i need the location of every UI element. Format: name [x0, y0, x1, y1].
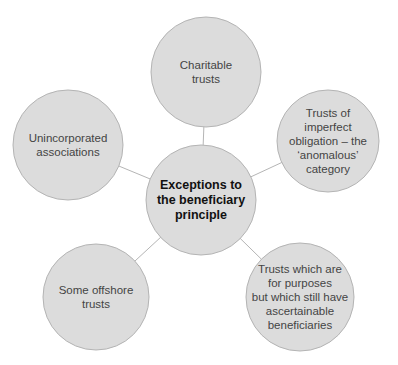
node-text: Trusts of imperfect obligation – the ‘an…: [289, 106, 367, 176]
node-line: Trusts of: [289, 106, 367, 120]
node-line: but which still have: [252, 290, 349, 304]
node-text: Some offshore trusts: [59, 283, 134, 311]
node-text: Trusts which are for purposes but which …: [252, 262, 349, 332]
node-imperfect-obligation: Trusts of imperfect obligation – the ‘an…: [277, 90, 379, 192]
node-text: Charitable trusts: [180, 58, 232, 86]
node-line: associations: [29, 145, 108, 159]
center-node-text: Exceptions to the beneficiary principle: [157, 178, 245, 223]
node-line: beneficiaries: [252, 318, 349, 332]
center-line-2: the beneficiary: [157, 193, 245, 208]
node-line: Some offshore: [59, 283, 134, 297]
node-unincorporated-associations: Unincorporated associations: [13, 90, 123, 200]
node-line: category: [289, 162, 367, 176]
node-charitable-trusts: Charitable trusts: [151, 17, 261, 127]
center-node-label: Exceptions to the beneficiary principle: [146, 145, 256, 255]
center-line-1: Exceptions to: [157, 178, 245, 193]
node-line: for purposes: [252, 276, 349, 290]
node-line: Trusts which are: [252, 262, 349, 276]
node-line: ascertainable: [252, 304, 349, 318]
node-line: trusts: [59, 297, 134, 311]
node-line: ‘anomalous’: [289, 148, 367, 162]
center-line-3: principle: [157, 208, 245, 223]
node-line: trusts: [180, 72, 232, 86]
node-offshore-trusts: Some offshore trusts: [43, 244, 149, 350]
node-line: obligation – the: [289, 134, 367, 148]
node-purpose-trusts-with-beneficiaries: Trusts which are for purposes but which …: [246, 243, 354, 351]
node-line: Unincorporated: [29, 131, 108, 145]
node-line: Charitable: [180, 58, 232, 72]
node-line: imperfect: [289, 120, 367, 134]
node-text: Unincorporated associations: [29, 131, 108, 159]
